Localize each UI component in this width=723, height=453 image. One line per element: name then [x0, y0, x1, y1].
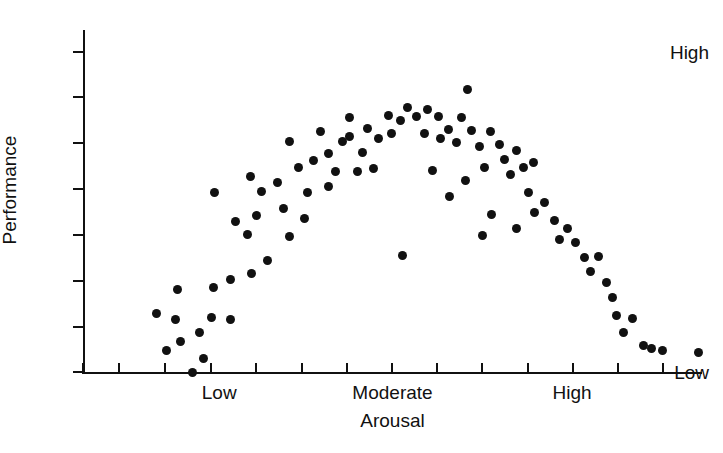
data-point	[324, 149, 333, 158]
data-point	[486, 127, 495, 136]
data-point	[263, 256, 272, 265]
y-tick-5	[73, 280, 84, 282]
data-point	[226, 275, 235, 284]
data-point	[602, 278, 611, 287]
data-point	[530, 208, 539, 217]
y-tick-3	[73, 188, 84, 190]
data-point	[294, 163, 303, 172]
data-point	[555, 235, 564, 244]
y-tick-label-low: Low	[651, 363, 723, 382]
x-tick-label-high: High	[552, 383, 591, 402]
data-point	[445, 192, 454, 201]
data-point	[619, 328, 628, 337]
data-point	[444, 125, 453, 134]
data-point	[243, 230, 252, 239]
x-tick-label-low: Low	[202, 383, 237, 402]
y-tick-label-high: High	[651, 43, 723, 62]
y-tick-0	[73, 51, 84, 53]
data-point	[285, 232, 294, 241]
x-tick-1	[118, 363, 120, 374]
x-tick-6	[346, 363, 348, 374]
data-point	[694, 348, 703, 357]
data-point	[594, 252, 603, 261]
data-point	[612, 311, 621, 320]
x-tick-11	[572, 363, 574, 374]
y-tick-1	[73, 96, 84, 98]
data-point	[487, 210, 496, 219]
data-point	[658, 346, 667, 355]
data-point	[434, 112, 443, 121]
x-tick-5	[301, 363, 303, 374]
data-point	[495, 140, 504, 149]
data-point	[152, 309, 161, 318]
data-point	[461, 176, 470, 185]
data-point	[403, 103, 412, 112]
data-point	[506, 170, 515, 179]
data-point	[608, 293, 617, 302]
data-point	[188, 368, 197, 377]
data-point	[463, 85, 472, 94]
x-tick-8	[436, 363, 438, 374]
x-tick-label-moderate: Moderate	[352, 383, 432, 402]
data-point	[475, 142, 484, 151]
x-tick-4	[255, 363, 257, 374]
data-point	[436, 134, 445, 143]
data-point	[303, 188, 312, 197]
data-point	[210, 188, 219, 197]
data-point	[279, 204, 288, 213]
data-point	[428, 166, 437, 175]
data-point	[524, 188, 533, 197]
scatter-plot-figure: HighLow LowModerateHigh Performance Arou…	[0, 0, 723, 453]
data-point	[387, 129, 396, 138]
data-point	[580, 253, 589, 262]
data-point	[345, 132, 354, 141]
data-point	[309, 156, 318, 165]
data-point	[396, 116, 405, 125]
data-point	[316, 127, 325, 136]
data-point	[384, 111, 393, 120]
y-tick-6	[73, 326, 84, 328]
data-point	[162, 346, 171, 355]
x-tick-9	[481, 363, 483, 374]
data-point	[285, 137, 294, 146]
x-tick-0	[82, 363, 84, 374]
y-axis-title: Performance	[0, 136, 19, 245]
data-point	[226, 315, 235, 324]
data-point	[571, 238, 580, 247]
data-point	[195, 328, 204, 337]
y-axis-line	[83, 30, 85, 374]
data-point	[512, 146, 521, 155]
data-point	[331, 167, 340, 176]
data-point	[467, 126, 476, 135]
data-point	[247, 269, 256, 278]
x-tick-10	[527, 363, 529, 374]
data-point	[457, 113, 466, 122]
data-point	[173, 285, 182, 294]
data-point	[252, 211, 261, 220]
data-point	[199, 354, 208, 363]
data-point	[420, 129, 429, 138]
y-tick-2	[73, 142, 84, 144]
data-point	[423, 105, 432, 114]
data-point	[550, 216, 559, 225]
data-point	[369, 164, 378, 173]
data-point	[452, 138, 461, 147]
x-axis-title: Arousal	[360, 411, 424, 430]
data-point	[586, 267, 595, 276]
data-point	[358, 148, 367, 157]
x-tick-3	[210, 363, 212, 374]
data-point	[246, 172, 255, 181]
data-point	[628, 314, 637, 323]
x-tick-2	[164, 363, 166, 374]
x-tick-12	[617, 363, 619, 374]
data-point	[647, 344, 656, 353]
data-point	[374, 134, 383, 143]
data-point	[273, 178, 282, 187]
data-point	[519, 163, 528, 172]
data-point	[478, 231, 487, 240]
data-point	[398, 251, 407, 260]
data-point	[540, 198, 549, 207]
data-point	[209, 283, 218, 292]
data-point	[176, 337, 185, 346]
data-point	[363, 124, 372, 133]
